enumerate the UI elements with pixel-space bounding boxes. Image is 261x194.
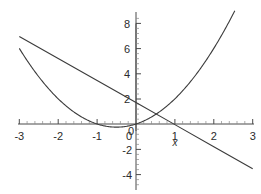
y-tick-label-4: 4: [124, 68, 130, 80]
y-tick-label--2: -2: [122, 144, 132, 156]
y-tick-label-2: 2: [124, 93, 130, 105]
y-axis-major-ticks: [136, 23, 141, 174]
chart-svg: -3 -2 -1 0 1 2 3 8 6 4 2 0 -2 -4 x: [0, 0, 261, 194]
x-tick-label-3: 3: [250, 130, 256, 142]
y-tick-label-8: 8: [124, 18, 130, 30]
x-tick-label-2: 2: [211, 130, 217, 142]
y-tick-label-0: 0: [128, 125, 134, 137]
x-tick-label--1: -1: [92, 130, 102, 142]
x-tick-label--2: -2: [53, 130, 63, 142]
y-tick-label-6: 6: [124, 43, 130, 55]
chart-plot-area: -3 -2 -1 0 1 2 3 8 6 4 2 0 -2 -4 x: [0, 0, 261, 194]
y-tick-label--4: -4: [122, 169, 132, 181]
x-axis-label: x: [172, 137, 179, 148]
x-tick-label--3: -3: [14, 130, 24, 142]
